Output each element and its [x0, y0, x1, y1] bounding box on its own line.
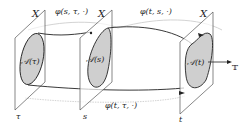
arrow-label-phi-t-tau: φ(t, τ, ·) — [105, 101, 137, 110]
trajectory-top-s-t — [108, 27, 192, 44]
plane-tau: X τ 𝒜(τ) — [15, 8, 48, 121]
space-label-x-tau: X — [31, 8, 40, 19]
time-label-s: s — [83, 112, 87, 121]
time-label-tau: τ — [16, 112, 21, 121]
time-axis-label: 𝕋 — [232, 63, 238, 72]
set-label-a-tau: 𝒜(τ) — [21, 57, 40, 66]
arrow-label-phi-t-s: φ(t, s, ·) — [140, 7, 172, 16]
time-label-t: t — [179, 115, 183, 124]
set-label-a-s: 𝒜(s) — [86, 55, 104, 64]
space-label-x-s: X — [97, 8, 106, 19]
set-label-a-t: 𝒜(t) — [187, 58, 204, 67]
plane-t: X t 𝒜(t) — [179, 8, 213, 124]
arrow-label-phi-s-tau: φ(s, τ, ·) — [55, 7, 88, 16]
invariant-family-diagram: X τ 𝒜(τ) X s 𝒜(s) X t 𝒜(t) 𝕋 φ(s, τ, ·) … — [0, 0, 249, 127]
space-label-x-t: X — [199, 8, 208, 19]
